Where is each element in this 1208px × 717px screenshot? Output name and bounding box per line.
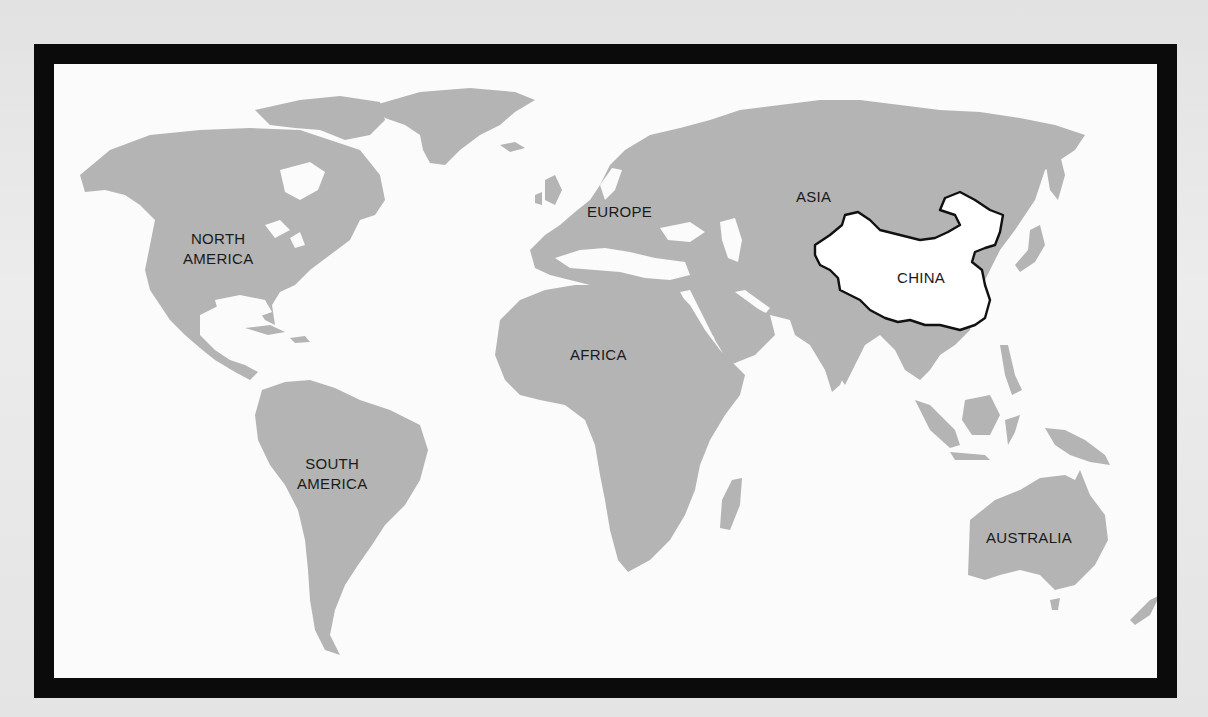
map-frame: NORTH AMERICA SOUTH AMERICA EUROPE ASIA … (34, 44, 1177, 698)
label-south-america: SOUTH AMERICA (297, 454, 367, 494)
iceland (500, 142, 525, 152)
java (950, 452, 990, 460)
borneo (962, 395, 1000, 435)
label-asia: ASIA (796, 187, 831, 207)
new-guinea (1045, 428, 1110, 465)
greenland (375, 88, 535, 165)
page: NORTH AMERICA SOUTH AMERICA EUROPE ASIA … (0, 0, 1208, 717)
japan (1015, 225, 1045, 272)
caribbean-islands (245, 325, 310, 343)
label-north-america: NORTH AMERICA (183, 229, 253, 269)
label-australia: AUSTRALIA (986, 528, 1072, 548)
south-america (255, 380, 428, 655)
new-zealand (1130, 595, 1157, 625)
philippines (1000, 345, 1022, 395)
sumatra (915, 400, 960, 448)
madagascar (720, 478, 742, 530)
british-isles (535, 175, 562, 205)
sulawesi (1005, 415, 1020, 445)
world-map: NORTH AMERICA SOUTH AMERICA EUROPE ASIA … (54, 64, 1157, 678)
label-europe: EUROPE (587, 202, 652, 222)
tasmania (1050, 598, 1060, 610)
label-china: CHINA (897, 268, 945, 288)
world-map-graphic (54, 64, 1157, 678)
label-africa: AFRICA (570, 345, 627, 365)
kamchatka (1045, 155, 1065, 200)
